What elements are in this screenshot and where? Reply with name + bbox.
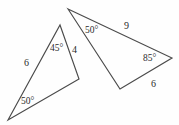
right-triangle-shape [68, 9, 172, 89]
left-triangle-bottom-left-angle-label: 50° [21, 97, 34, 107]
geometry-diagram: 6 45° 4 50° 50° 9 85° 6 [0, 0, 179, 125]
right-triangle-left-angle-label: 50° [85, 26, 98, 36]
left-triangle-side-left-label: 6 [24, 58, 29, 68]
left-triangle-shape [8, 25, 79, 120]
right-triangle-side-top-label: 9 [124, 21, 129, 31]
right-triangle-side-bottom-label: 6 [151, 79, 156, 89]
left-triangle-apex-angle-label: 45° [50, 44, 63, 54]
left-triangle-side-right-label: 4 [72, 45, 77, 55]
right-triangle-right-angle-label: 85° [143, 54, 156, 64]
